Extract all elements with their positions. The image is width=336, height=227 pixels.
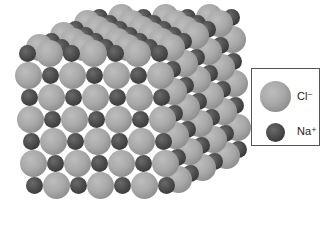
sodium-ion: [153, 89, 170, 106]
chloride-ion: [17, 106, 44, 133]
sodium-ion: [88, 111, 105, 128]
chloride-ion: [40, 128, 67, 155]
chloride-ion: [103, 62, 130, 89]
sodium-ion: [132, 111, 149, 128]
chloride-ion: [149, 106, 176, 133]
sodium-ion: [114, 177, 131, 194]
chloride-ion: [80, 40, 107, 67]
chloride-ion: [61, 106, 88, 133]
sodium-ion: [47, 155, 64, 172]
sodium-ion: [135, 155, 152, 172]
sodium-ion: [109, 89, 126, 106]
legend-box: Cl⁻ Na⁺: [251, 68, 320, 146]
chloride-ion: [36, 40, 63, 67]
chloride-ion-icon: [260, 81, 291, 112]
sodium-ion: [158, 177, 175, 194]
chloride-ion: [126, 84, 153, 111]
legend-label-chloride: Cl⁻: [297, 90, 313, 103]
chloride-ion: [15, 62, 42, 89]
sodium-ion: [26, 177, 43, 194]
chloride-ion: [84, 128, 111, 155]
chloride-ion: [147, 62, 174, 89]
sodium-ion: [107, 45, 124, 62]
sodium-ion: [91, 155, 108, 172]
sodium-ion: [70, 177, 87, 194]
nacl-crystal-lattice: [0, 0, 250, 227]
chloride-ion: [64, 150, 91, 177]
sodium-ion: [23, 133, 40, 150]
chloride-ion: [108, 150, 135, 177]
chloride-ion: [82, 84, 109, 111]
sodium-ion: [19, 45, 36, 62]
sodium-ion: [86, 67, 103, 84]
sodium-ion: [111, 133, 128, 150]
chloride-ion: [87, 172, 114, 199]
sodium-ion: [44, 111, 61, 128]
chloride-ion: [105, 106, 132, 133]
sodium-ion: [67, 133, 84, 150]
chloride-ion: [59, 62, 86, 89]
chloride-ion: [20, 150, 47, 177]
sodium-ion: [65, 89, 82, 106]
legend-label-sodium: Na⁺: [297, 125, 317, 138]
sodium-ion: [151, 45, 168, 62]
sodium-ion: [21, 89, 38, 106]
sodium-ion: [155, 133, 172, 150]
sodium-ion: [63, 45, 80, 62]
chloride-ion: [152, 150, 179, 177]
sodium-ion: [130, 67, 147, 84]
chloride-ion: [131, 172, 158, 199]
chloride-ion: [124, 40, 151, 67]
chloride-ion: [43, 172, 70, 199]
sodium-ion: [42, 67, 59, 84]
chloride-ion: [128, 128, 155, 155]
sodium-ion-icon: [266, 123, 285, 142]
chloride-ion: [38, 84, 65, 111]
